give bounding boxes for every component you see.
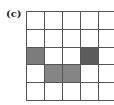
grid-cell-r3-c2 (63, 65, 81, 83)
grid-cell-r2-c4 (99, 48, 114, 66)
grid-cell-r4-c1 (45, 83, 63, 101)
grid-cell-r3-c4 (99, 65, 114, 83)
grid-cell-r1-c1 (45, 30, 63, 48)
grid-cell-r4-c2 (63, 83, 81, 101)
grid-cell-r4-c4 (99, 83, 114, 101)
grid-cell-r0-c3 (81, 12, 99, 30)
grid-cell-r2-c2 (63, 48, 81, 66)
grid-cell-r2-c3 (81, 48, 99, 66)
grid-cell-r0-c2 (63, 12, 81, 30)
grid-cell-r3-c1 (45, 65, 63, 83)
grid-cell-r1-c2 (63, 30, 81, 48)
grid-cell-r3-c3 (81, 65, 99, 83)
grid-cell-r4-c3 (81, 83, 99, 101)
grid-cell-r0-c1 (45, 12, 63, 30)
figure-label: (c) (6, 8, 22, 19)
pixel-grid (26, 11, 114, 101)
grid-cell-r1-c0 (27, 30, 45, 48)
grid-cell-r2-c1 (45, 48, 63, 66)
grid-cell-r1-c4 (99, 30, 114, 48)
grid-cell-r4-c0 (27, 83, 45, 101)
grid-cell-r0-c0 (27, 12, 45, 30)
grid-cell-r3-c0 (27, 65, 45, 83)
grid-cell-r2-c0 (27, 48, 45, 66)
grid-cell-r1-c3 (81, 30, 99, 48)
grid-cell-r0-c4 (99, 12, 114, 30)
